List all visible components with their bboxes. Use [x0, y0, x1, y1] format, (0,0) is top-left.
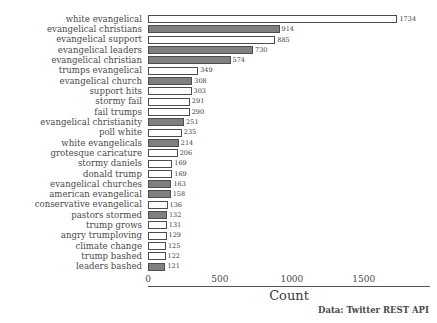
bar [148, 211, 167, 219]
bar-value-label: 132 [169, 212, 181, 219]
bar-row: 730 [148, 45, 430, 55]
bar-value-label: 235 [184, 129, 196, 136]
category-label: donald trump [83, 170, 145, 179]
category-label: evangelical christianity [40, 118, 145, 127]
category-label-row: conservative evangelical [0, 200, 145, 210]
category-label: evangelical church [60, 77, 145, 86]
bar-value-label: 349 [200, 67, 212, 74]
category-label-row: trump bashed [0, 251, 145, 261]
category-label-row: evangelical support [0, 35, 145, 45]
plot-area: 1734914885730574349308303291290251235214… [148, 14, 430, 272]
category-label-row: support hits [0, 86, 145, 96]
category-label-row: poll white [0, 127, 145, 137]
category-label: climate change [76, 242, 145, 251]
bar-row: 251 [148, 117, 430, 127]
bar-value-label: 303 [194, 88, 206, 95]
category-label: poll white [99, 128, 145, 137]
bar-value-label: 158 [173, 191, 185, 198]
bar-row: 125 [148, 241, 430, 251]
bar-value-label: 885 [277, 37, 289, 44]
category-label: trump grows [86, 221, 145, 230]
bar [148, 180, 171, 188]
category-label-row: stormy fail [0, 97, 145, 107]
bar [148, 190, 171, 198]
bar [148, 77, 192, 85]
bar [148, 252, 166, 260]
bar-row: 136 [148, 200, 430, 210]
category-label: stormy daniels [78, 159, 145, 168]
category-label: grotesque caricature [51, 149, 146, 158]
category-label-row: fail trumps [0, 107, 145, 117]
x-tick-label: 500 [211, 275, 228, 284]
category-label-row: evangelical christian [0, 55, 145, 65]
bar-value-label: 574 [233, 57, 245, 64]
bar-value-label: 169 [174, 171, 186, 178]
bar-row: 303 [148, 86, 430, 96]
bar-row: 163 [148, 179, 430, 189]
category-label: evangelical christian [51, 56, 145, 65]
category-label: white evangelicals [61, 139, 145, 148]
bar-row: 206 [148, 148, 430, 158]
bar-row: 121 [148, 262, 430, 272]
bar [148, 232, 167, 240]
x-axis-line [148, 272, 430, 273]
category-label-row: evangelical leaders [0, 45, 145, 55]
category-label-row: leaders bashed [0, 262, 145, 272]
bar-value-label: 206 [180, 150, 192, 157]
category-label: conservative evangelical [35, 200, 145, 209]
bar [148, 160, 172, 168]
category-label-row: trump grows [0, 220, 145, 230]
category-label: evangelical support [56, 35, 145, 44]
bar [148, 98, 190, 106]
category-label-row: climate change [0, 241, 145, 251]
category-label: support hits [89, 87, 145, 96]
category-label-row: grotesque caricature [0, 148, 145, 158]
bar-row: 1734 [148, 14, 430, 24]
category-label-row: pastors stormed [0, 210, 145, 220]
bar [148, 129, 182, 137]
category-label: trumps evangelical [59, 66, 145, 75]
bar-row: 290 [148, 107, 430, 117]
bar-value-label: 251 [186, 119, 198, 126]
category-label-row: evangelical christians [0, 24, 145, 34]
bar-row: 291 [148, 97, 430, 107]
bar-value-label: 131 [169, 222, 181, 229]
bar-value-label: 125 [168, 243, 180, 250]
bar-value-label: 308 [194, 78, 206, 85]
category-label-row: white evangelical [0, 14, 145, 24]
bar-rows: 1734914885730574349308303291290251235214… [148, 14, 430, 272]
bar [148, 242, 166, 250]
bar-value-label: 730 [255, 47, 267, 54]
bar-value-label: 1734 [399, 16, 416, 23]
x-tick-label: 1000 [280, 275, 303, 284]
category-label: pastors stormed [71, 211, 145, 220]
category-label-row: evangelical churches [0, 179, 145, 189]
x-axis-tick-labels: 050010001500 [148, 275, 437, 289]
bar-row: 914 [148, 24, 430, 34]
bar [148, 263, 165, 271]
bar [148, 67, 198, 75]
x-tick-label: 0 [145, 275, 151, 284]
bar [148, 118, 184, 126]
category-label-row: stormy daniels [0, 158, 145, 168]
bar-row: 574 [148, 55, 430, 65]
bar [148, 25, 280, 33]
bar-value-label: 136 [170, 202, 182, 209]
category-label: leaders bashed [76, 262, 145, 271]
category-label-row: evangelical christianity [0, 117, 145, 127]
bar [148, 201, 168, 209]
bar [148, 87, 192, 95]
bar-row: 235 [148, 127, 430, 137]
bar [148, 108, 190, 116]
bar-row: 169 [148, 169, 430, 179]
bar-value-label: 122 [168, 253, 180, 260]
bar [148, 139, 179, 147]
bar-value-label: 914 [282, 26, 294, 33]
bar-row: 169 [148, 158, 430, 168]
category-label: trump bashed [81, 252, 145, 261]
bar-value-label: 291 [192, 98, 204, 105]
bar [148, 36, 275, 44]
bar-row: 158 [148, 189, 430, 199]
bar-row: 132 [148, 210, 430, 220]
bar-row: 885 [148, 35, 430, 45]
